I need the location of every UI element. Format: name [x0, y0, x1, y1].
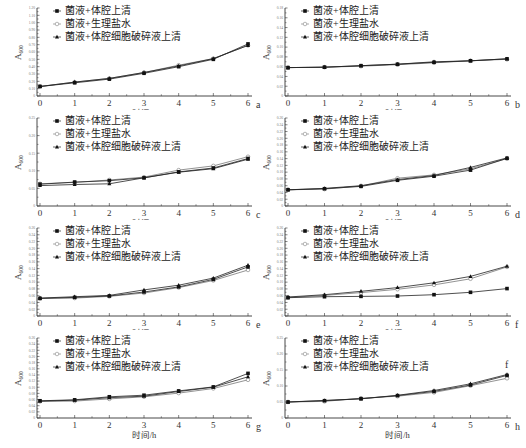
- panel-label: g: [256, 421, 261, 432]
- legend-marker-icon: [303, 119, 307, 123]
- x-tick-label: 3: [142, 318, 147, 328]
- data-point-marker: [38, 399, 42, 403]
- legend: 菌液+体腔上清菌液+生理盐水菌液+体腔细胞破碎液上清: [53, 4, 181, 42]
- y-tick-label: 0.14: [277, 267, 283, 271]
- series-line: [288, 266, 507, 297]
- legend-label: 菌液+体腔上清: [313, 334, 379, 346]
- x-tick-label: 3: [395, 318, 400, 328]
- y-tick-label: 0.08: [277, 287, 283, 291]
- y-tick-label: 0.10: [277, 384, 283, 388]
- x-tick-label: 1: [322, 318, 327, 328]
- y-tick-label: 0.18: [277, 253, 283, 257]
- series-group: [286, 156, 509, 192]
- data-point-marker: [323, 187, 327, 191]
- legend-label: 菌液+体腔细胞破碎液上清: [65, 250, 181, 262]
- y-tick-label: 0.02: [277, 308, 283, 312]
- legend-label: 菌液+生理盐水: [313, 17, 379, 29]
- legend-marker-icon: [303, 365, 307, 369]
- y-axis-label: A600: [263, 45, 272, 60]
- x-tick-label: 6: [505, 208, 510, 218]
- y-tick-label: 0.04: [29, 301, 35, 305]
- data-point-marker: [212, 278, 216, 282]
- chart-panel-h: 00.050.100.150.200.250123456时间/hA600hf菌液…: [263, 330, 526, 448]
- y-tick-label: 0.14: [29, 373, 35, 377]
- x-tick-label: 3: [395, 420, 400, 430]
- legend-marker-icon: [55, 339, 59, 343]
- chart-svg-g: 00.020.040.060.080.100.120.140.160.180.2…: [0, 330, 263, 448]
- y-tick-label: 0.24: [277, 123, 283, 127]
- y-tick-label: 0.08: [277, 55, 283, 59]
- x-tick-label: 5: [211, 420, 216, 430]
- y-tick-label: 0.14: [29, 267, 35, 271]
- y-tick-label: 0.10: [29, 169, 35, 173]
- legend-label: 菌液+体腔上清: [313, 4, 379, 16]
- x-tick-label: 2: [359, 420, 364, 430]
- y-tick-label: 0.20: [29, 134, 35, 138]
- legend-label: 菌液+体腔细胞破碎液上清: [65, 360, 181, 372]
- y-tick-label: 0.12: [29, 274, 35, 278]
- data-point-marker: [177, 170, 181, 174]
- series-line: [288, 378, 507, 402]
- x-tick-label: 1: [72, 208, 77, 218]
- data-point-marker: [359, 397, 363, 401]
- x-tick-label: 4: [432, 98, 437, 108]
- x-tick-label: 0: [286, 208, 291, 218]
- y-tick-label: 0.15: [29, 152, 35, 156]
- extra-panel-label: f: [505, 359, 509, 370]
- legend-marker-icon: [303, 145, 307, 149]
- series-group: [286, 57, 509, 70]
- y-tick-label: 0.06: [29, 294, 35, 298]
- y-tick-label: 0.12: [277, 274, 283, 278]
- y-tick-label: 0.20: [277, 137, 283, 141]
- legend-marker-icon: [55, 365, 59, 369]
- data-point-marker: [505, 156, 509, 160]
- legend-label: 菌液+体腔上清: [313, 114, 379, 126]
- chart-svg-b: 00.020.040.060.080.100.120.140.160.18012…: [263, 0, 526, 110]
- x-tick-label: 1: [322, 420, 327, 430]
- x-tick-label: 5: [468, 318, 473, 328]
- legend-marker-icon: [55, 119, 59, 123]
- y-tick-label: 0.16: [277, 260, 283, 264]
- data-point-marker: [246, 378, 250, 382]
- data-point-marker: [246, 157, 250, 161]
- chart-panel-d: 00.020.040.060.080.100.120.140.160.180.2…: [263, 110, 526, 220]
- x-tick-label: 6: [505, 420, 510, 430]
- y-tick-label: 0.05: [277, 400, 283, 404]
- x-tick-label: 0: [286, 98, 291, 108]
- y-tick-label: 0.16: [277, 150, 283, 154]
- legend-label: 菌液+生理盐水: [313, 127, 379, 139]
- x-tick-label: 2: [107, 98, 112, 108]
- legend-label: 菌液+体腔上清: [65, 114, 131, 126]
- y-tick-label: 0.15: [277, 368, 283, 372]
- series-line: [288, 158, 507, 190]
- x-tick-label: 0: [286, 420, 291, 430]
- legend-label: 菌液+生理盐水: [65, 127, 131, 139]
- panel-label: e: [256, 319, 261, 330]
- x-tick-label: 2: [359, 98, 364, 108]
- data-point-marker: [396, 294, 400, 298]
- legend-marker-icon: [55, 145, 59, 149]
- y-tick-label: 0.10: [277, 280, 283, 284]
- chart-svg-c: 00.050.100.150.200.250123456时间/hA600c菌液+…: [0, 110, 263, 220]
- panel-label: b: [515, 99, 520, 110]
- legend-label: 菌液+体腔上清: [313, 224, 379, 236]
- data-point-marker: [286, 400, 290, 404]
- data-point-marker: [505, 287, 509, 291]
- x-tick-label: 0: [38, 98, 43, 108]
- x-tick-label: 0: [286, 318, 291, 328]
- x-tick-label: 2: [107, 208, 112, 218]
- data-point-marker: [142, 176, 146, 180]
- x-tick-label: 4: [176, 318, 181, 328]
- y-tick-label: 0.20: [277, 352, 283, 356]
- x-axis-label: 时间/h: [132, 430, 157, 440]
- y-tick-label: 0.70: [29, 43, 35, 47]
- x-tick-label: 4: [176, 208, 181, 218]
- x-tick-label: 6: [246, 318, 251, 328]
- x-tick-label: 4: [432, 318, 437, 328]
- data-point-marker: [323, 399, 327, 403]
- x-tick-label: 6: [505, 98, 510, 108]
- series-group: [286, 264, 509, 299]
- x-tick-label: 5: [468, 98, 473, 108]
- legend-label: 菌液+生理盐水: [313, 237, 379, 249]
- data-point-marker: [142, 71, 146, 75]
